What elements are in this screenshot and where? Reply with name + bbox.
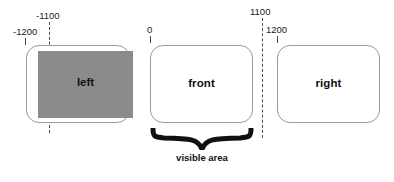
screen-left-label: left: [38, 76, 133, 88]
screen-front: front: [150, 45, 253, 123]
guide-line-plus1100: [262, 18, 263, 138]
axis-label-minus1200: -1200: [13, 26, 37, 37]
screen-front-label: front: [151, 77, 252, 89]
axis-label-plus1100: 1100: [250, 6, 270, 17]
axis-label-zero: 0: [147, 24, 152, 35]
visible-area-brace-icon: [150, 128, 254, 150]
axis-label-minus1100: -1100: [36, 10, 60, 21]
tick-mark-zero: [150, 36, 151, 43]
axis-label-plus1200: 1200: [266, 24, 287, 35]
tick-mark-minus1200: [25, 38, 26, 45]
diagram-canvas: -1100 -1200 0 1100 1200 left front right…: [0, 0, 394, 182]
screen-right-label: right: [278, 77, 379, 89]
tick-mark-plus1200: [277, 36, 278, 43]
screen-right: right: [277, 45, 380, 123]
visible-area-label: visible area: [150, 152, 254, 163]
